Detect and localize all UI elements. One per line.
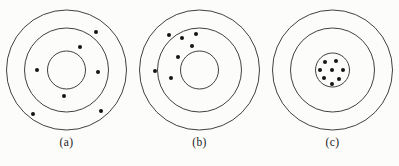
data-point [341,68,345,72]
data-point [180,36,184,40]
data-point [323,60,327,64]
target-panel-c: (c) [266,0,399,166]
data-point [167,33,171,37]
target-panel-a: (a) [0,0,133,166]
target-rings-b [133,0,266,140]
data-point [190,44,194,48]
data-point [194,32,198,36]
target-rings-a [0,0,133,140]
data-point [330,68,334,72]
target-diagram-figure: (a)(b)(c) [0,0,399,166]
data-point [176,55,180,59]
data-point [330,82,334,86]
data-point [99,109,103,113]
target-rings-c [266,0,399,140]
inner-ring-b [181,51,219,89]
inner-ring-a [48,51,86,89]
data-point [318,68,322,72]
data-point [62,94,66,98]
data-point [96,70,100,74]
data-point [78,45,82,49]
target-panel-b: (b) [133,0,266,166]
data-point [153,69,157,73]
panel-label-a: (a) [0,136,133,149]
data-point [169,76,173,80]
data-point [322,76,326,80]
middle-ring-b [158,28,242,112]
data-point [35,68,39,72]
data-point [94,30,98,34]
data-point [337,77,341,81]
panel-label-b: (b) [133,136,266,149]
data-point [334,59,338,63]
panel-label-c: (c) [266,136,399,149]
data-point [31,112,35,116]
